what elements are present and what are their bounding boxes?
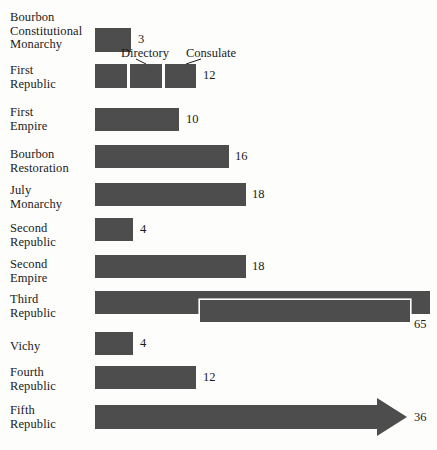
bar-july-monarchy — [95, 183, 246, 206]
value-label-second-republic: 4 — [140, 223, 146, 236]
row-label-third-republic: Third Republic — [10, 293, 56, 320]
bar-vichy — [95, 332, 133, 355]
bar-fifth-republic-arrow — [95, 398, 407, 436]
value-label-bourbon-restoration: 16 — [235, 150, 248, 163]
value-label-fifth-republic: 36 — [414, 411, 427, 424]
row-label-second-republic: Second Republic — [10, 222, 56, 249]
value-label-second-empire: 18 — [252, 260, 265, 273]
bar-bourbon-restoration — [95, 145, 229, 168]
value-label-july-monarchy: 18 — [252, 188, 265, 201]
row-label-second-empire: Second Empire — [10, 258, 47, 285]
leader-line-consulate — [0, 0, 437, 110]
regime-duration-bar-chart: Bourbon Constitutional Monarchy 3 First … — [0, 0, 437, 450]
row-label-first-empire: First Empire — [10, 106, 47, 133]
row-label-fifth-republic: Fifth Republic — [10, 404, 56, 431]
bar-fourth-republic — [95, 366, 196, 389]
row-label-july-monarchy: July Monarchy — [10, 184, 62, 211]
value-label-first-republic: 12 — [203, 69, 216, 82]
value-label-fourth-republic: 12 — [203, 371, 216, 384]
bar-second-empire — [95, 255, 246, 278]
row-label-vichy: Vichy — [10, 340, 40, 354]
value-label-first-empire: 10 — [186, 113, 199, 126]
value-label-vichy: 4 — [140, 337, 146, 350]
bar-first-empire — [95, 108, 179, 131]
bar-third-republic-line-2 — [200, 300, 410, 322]
row-label-fourth-republic: Fourth Republic — [10, 366, 56, 393]
value-label-third-republic: 65 — [414, 318, 427, 331]
row-label-bourbon-restoration: Bourbon Restoration — [10, 148, 69, 175]
bar-second-republic — [95, 218, 133, 241]
